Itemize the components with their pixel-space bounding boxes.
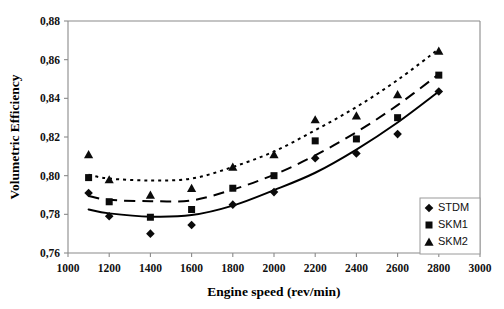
chart-figure: 0,880,860,840,820,800,780,76 10001200140…: [0, 0, 504, 309]
diamond-marker: [311, 154, 320, 163]
legend-label-skm1: SKM1: [438, 218, 468, 230]
triangle-marker: [146, 191, 155, 199]
triangle-marker: [352, 111, 361, 119]
square-marker: [312, 137, 319, 144]
square-marker: [229, 185, 236, 192]
y-tick-label: 0,84: [40, 92, 60, 104]
series-skm2: [84, 47, 443, 199]
triangle-marker: [311, 115, 320, 123]
triangle-marker: [393, 90, 402, 98]
x-tick-label: 1200: [98, 262, 121, 274]
square-marker: [147, 214, 154, 221]
chart-legend: STDMSKM1SKM2: [420, 198, 480, 254]
SKM2-fit: [89, 49, 439, 180]
x-tick-label: 1000: [57, 262, 80, 274]
axis-frame: [68, 21, 480, 253]
fit-curves: [89, 49, 439, 217]
x-tick-label: 1400: [139, 262, 162, 274]
x-tick-label: 2000: [263, 262, 286, 274]
x-tick-label: 1600: [180, 262, 203, 274]
y-axis-title: Volumetric Efficiency: [7, 74, 22, 199]
data-markers: [84, 47, 443, 238]
square-marker: [106, 198, 113, 205]
y-tick-label: 0,88: [40, 15, 60, 27]
square-marker: [426, 222, 433, 229]
triangle-marker: [105, 175, 114, 183]
y-tick-label: 0,80: [40, 170, 60, 182]
square-marker: [271, 172, 278, 179]
y-axis-ticks: 0,880,860,840,820,800,780,76: [40, 15, 68, 259]
x-tick-label: 2200: [304, 262, 327, 274]
x-axis-ticks: 1000120014001600180020002200240026002800…: [57, 253, 492, 274]
triangle-marker: [434, 47, 443, 55]
y-tick-label: 0,76: [40, 247, 60, 259]
legend-label-stdm: STDM: [438, 201, 469, 213]
STDM-fit: [89, 92, 439, 217]
triangle-marker: [269, 150, 278, 158]
square-marker: [435, 72, 442, 79]
diamond-marker: [393, 130, 402, 139]
legend-label-skm2: SKM2: [438, 235, 468, 247]
volumetric-efficiency-chart: 0,880,860,840,820,800,780,76 10001200140…: [0, 0, 504, 309]
square-marker: [188, 206, 195, 213]
square-marker: [85, 174, 92, 181]
SKM1-fit: [89, 74, 439, 201]
x-axis-title: Engine speed (rev/min): [207, 284, 340, 299]
diamond-marker: [229, 200, 238, 209]
y-tick-label: 0,82: [40, 131, 60, 143]
x-tick-label: 2800: [427, 262, 450, 274]
square-marker: [353, 135, 360, 142]
series-skm1: [85, 72, 442, 221]
diamond-marker: [146, 229, 155, 238]
x-tick-label: 3000: [469, 262, 492, 274]
y-tick-label: 0,78: [40, 208, 60, 220]
triangle-marker: [84, 150, 93, 158]
x-tick-label: 2400: [345, 262, 368, 274]
x-tick-label: 1800: [221, 262, 244, 274]
y-tick-label: 0,86: [40, 54, 60, 66]
triangle-marker: [187, 184, 196, 192]
square-marker: [394, 114, 401, 121]
diamond-marker: [187, 221, 196, 230]
x-tick-label: 2600: [386, 262, 409, 274]
